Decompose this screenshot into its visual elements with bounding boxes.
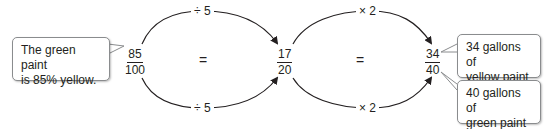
equals-sign-1: = (199, 52, 207, 68)
op-label-multiply-bottom: × 2 (356, 101, 379, 115)
fraction-denominator: 20 (278, 63, 291, 77)
left-callout-pointer (108, 44, 124, 54)
right-callout-green-line2: green paint (466, 116, 532, 129)
right-callout-yellow-line1: 34 gallons of (466, 40, 532, 70)
fraction-denominator: 100 (125, 63, 145, 77)
left-callout-line1: The green paint (21, 43, 101, 73)
op-label-divide-bottom: ÷ 5 (191, 101, 214, 115)
op-label-divide-top: ÷ 5 (191, 4, 214, 18)
fraction-denominator: 40 (426, 63, 439, 77)
op-label-multiply-top: × 2 (356, 4, 379, 18)
fraction-17-20: 17 20 (277, 48, 292, 77)
right-callout-pointer-2 (441, 72, 457, 90)
left-callout: The green paint is 85% yellow. (12, 37, 110, 81)
right-callout-pointer-1 (441, 44, 457, 52)
fraction-numerator: 85 (127, 48, 142, 63)
fraction-85-100: 85 100 (125, 48, 145, 77)
equals-sign-2: = (356, 52, 364, 68)
fraction-numerator: 17 (277, 48, 292, 63)
right-callout-yellow: 34 gallons of yellow paint (457, 34, 541, 78)
right-callout-green: 40 gallons of green paint (457, 80, 541, 124)
right-callout-green-line1: 40 gallons of (466, 86, 532, 116)
left-callout-line2: is 85% yellow. (21, 73, 101, 88)
fraction-numerator: 34 (425, 48, 440, 63)
fraction-34-40: 34 40 (425, 48, 440, 77)
